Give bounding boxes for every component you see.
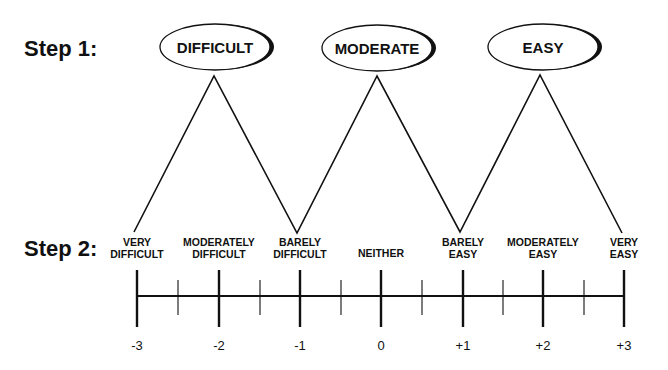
category-line1: BARELY bbox=[279, 236, 321, 248]
category-label: VERYEASY bbox=[610, 236, 639, 260]
scale-value: 0 bbox=[377, 338, 384, 353]
option-oval-moderate: MODERATE bbox=[322, 25, 436, 71]
category-line1: VERY bbox=[123, 236, 151, 248]
scale-value: -3 bbox=[131, 338, 143, 353]
scale-value: +3 bbox=[617, 338, 632, 353]
step1-label: Step 1: bbox=[24, 36, 97, 61]
scale-value: +2 bbox=[536, 338, 551, 353]
step1-options: DIFFICULTMODERATEEASY bbox=[160, 24, 602, 71]
category-line2: DIFFICULT bbox=[273, 248, 327, 260]
category-line2: EASY bbox=[610, 248, 639, 260]
option-oval-difficult: DIFFICULT bbox=[160, 24, 274, 70]
oval-label: MODERATE bbox=[335, 40, 420, 57]
step2-label: Step 2: bbox=[24, 236, 97, 261]
oval-label: DIFFICULT bbox=[177, 39, 253, 56]
category-line2: DIFFICULT bbox=[110, 248, 164, 260]
category-line2: EASY bbox=[449, 248, 478, 260]
category-label: VERYDIFFICULT bbox=[110, 236, 164, 260]
category-line1: MODERATELY bbox=[507, 236, 579, 248]
category-line2: DIFFICULT bbox=[192, 248, 246, 260]
step2-categories: VERYDIFFICULTMODERATELYDIFFICULTBARELYDI… bbox=[110, 236, 638, 260]
scale-numbers: -3-2-10+1+2+3 bbox=[131, 338, 631, 353]
oval-label: EASY bbox=[523, 39, 564, 56]
category-line1: NEITHER bbox=[358, 247, 405, 259]
scale-value: -2 bbox=[213, 338, 225, 353]
category-label: NEITHER bbox=[358, 247, 405, 259]
category-label: BARELYEASY bbox=[442, 236, 484, 260]
category-line1: MODERATELY bbox=[183, 236, 255, 248]
scale-ticks bbox=[137, 270, 624, 327]
zigzag-connector-line bbox=[134, 75, 622, 233]
category-label: MODERATELYDIFFICULT bbox=[183, 236, 255, 260]
category-line2: EASY bbox=[529, 248, 558, 260]
category-line1: VERY bbox=[610, 236, 638, 248]
category-line1: BARELY bbox=[442, 236, 484, 248]
scale-value: -1 bbox=[294, 338, 306, 353]
scale-value: +1 bbox=[456, 338, 471, 353]
option-oval-easy: EASY bbox=[488, 24, 602, 70]
two-step-rating-diagram: Step 1: Step 2: DIFFICULTMODERATEEASY VE… bbox=[0, 0, 668, 370]
category-label: MODERATELYEASY bbox=[507, 236, 579, 260]
category-label: BARELYDIFFICULT bbox=[273, 236, 327, 260]
